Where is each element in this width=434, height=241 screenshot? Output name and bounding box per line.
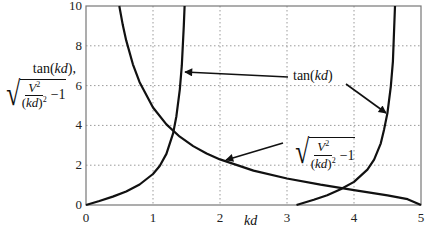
y-tick-label: 4 — [76, 117, 83, 132]
x-tick-label: 5 — [418, 210, 425, 225]
chart-canvas: 0123450246810 kd tan(kd) — [0, 0, 434, 241]
y-axis-label: tan(kd), √ V2(kd)2 −1 — [4, 62, 82, 109]
radical-sign-icon: √ — [295, 137, 309, 173]
curve-line — [86, 6, 185, 205]
y-tick-label: 0 — [76, 197, 83, 212]
y-axis-label-tan: tan(kd), — [4, 62, 82, 76]
arrow-icon — [226, 143, 283, 160]
y-tick-label: 10 — [69, 0, 82, 13]
grid-lines — [86, 6, 421, 205]
curve-line — [297, 6, 396, 205]
y-tick-label: 8 — [76, 38, 83, 53]
x-tick-label: 1 — [150, 210, 157, 225]
arrow-icon — [346, 84, 386, 113]
radical-sign-icon: √ — [6, 79, 20, 109]
x-tick-label: 0 — [83, 210, 90, 225]
arrow-icon — [185, 72, 288, 77]
y-tick-label: 2 — [76, 157, 83, 172]
x-tick-label: 4 — [351, 210, 358, 225]
x-tick-label: 3 — [284, 210, 291, 225]
sqrt-annotation-label: √ V2(kd)2 −1 — [293, 134, 355, 173]
tick-labels: 0123450246810 — [69, 0, 424, 225]
x-tick-label: 2 — [217, 210, 224, 225]
x-axis-label: kd — [244, 213, 258, 228]
curves — [86, 6, 421, 205]
plot-frame — [86, 6, 421, 205]
y-axis-label-sqrt: √ V2(kd)2 −1 — [4, 79, 66, 109]
tan-annotation-label: tan(kd) — [293, 68, 333, 84]
